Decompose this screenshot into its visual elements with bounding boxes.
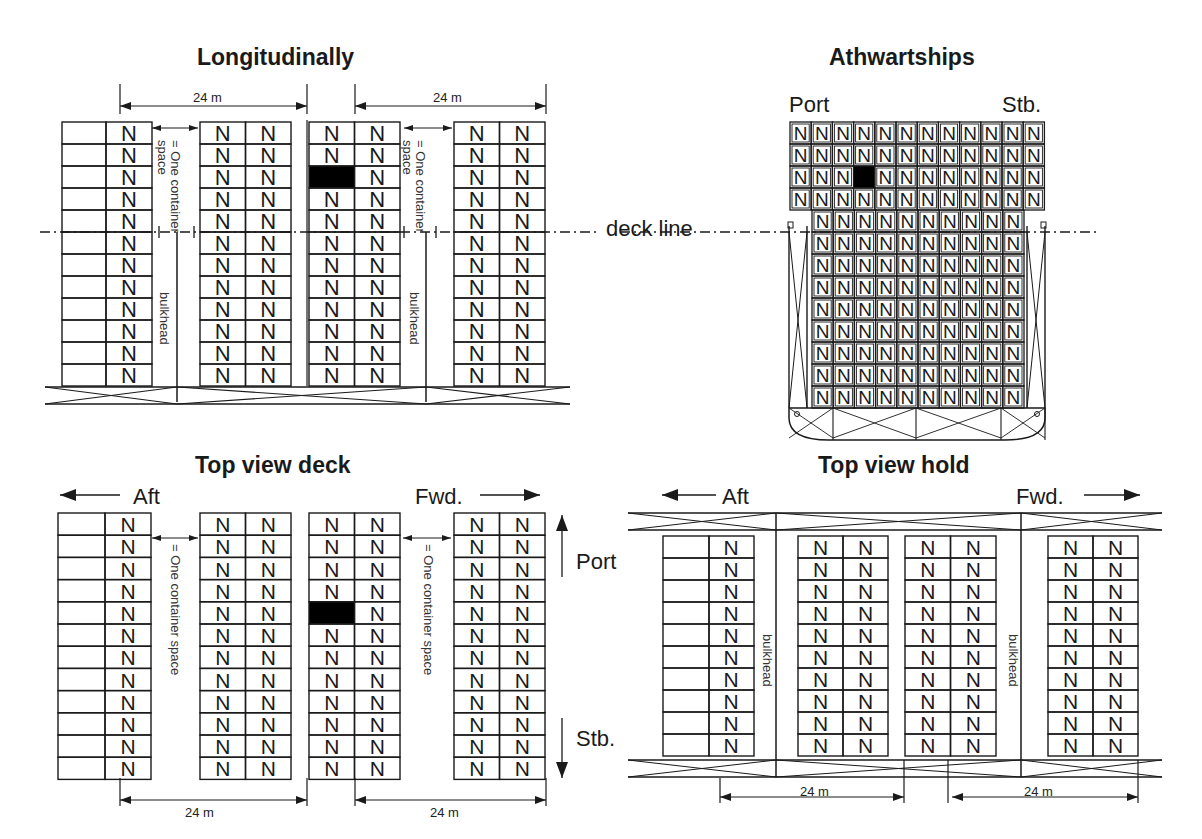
svg-text:N: N	[324, 713, 339, 736]
label-stb-athwart: Stb.	[1002, 92, 1041, 118]
svg-text:N: N	[920, 734, 935, 757]
container-glyph: N	[964, 365, 978, 386]
container-glyph: N	[964, 321, 978, 342]
svg-text:N: N	[469, 735, 484, 758]
svg-text:N: N	[324, 646, 339, 669]
svg-text:N: N	[1108, 558, 1123, 581]
container-glyph: N	[900, 123, 914, 144]
svg-text:N: N	[966, 558, 981, 581]
container-glyph: N	[922, 277, 936, 298]
svg-text:N: N	[966, 580, 981, 603]
container-glyph: N	[879, 387, 893, 408]
svg-text:N: N	[370, 713, 385, 736]
svg-text:N: N	[370, 580, 385, 603]
svg-text:N: N	[370, 735, 385, 758]
container-glyph: N	[879, 321, 893, 342]
svg-text:N: N	[469, 363, 485, 388]
container-glyph: N	[837, 277, 851, 298]
container-glyph: N	[901, 277, 915, 298]
container-glyph: N	[1007, 343, 1021, 364]
svg-text:N: N	[370, 757, 385, 780]
container-glyph: N	[922, 255, 936, 276]
container-glyph: N	[120, 580, 135, 603]
container-glyph: N	[922, 299, 936, 320]
svg-text:N: N	[966, 602, 981, 625]
container-glyph: N	[858, 233, 872, 254]
container-bay: NNNNNNNNNNNNNNNNNNNN	[798, 536, 888, 757]
svg-text:N: N	[1063, 734, 1078, 757]
container-glyph: N	[985, 299, 999, 320]
svg-text:N: N	[469, 713, 484, 736]
container-glyph: N	[1027, 189, 1041, 210]
svg-text:N: N	[1063, 690, 1078, 713]
svg-text:N: N	[1108, 712, 1123, 735]
container-glyph: N	[964, 211, 978, 232]
note-one-container-space-long-1: = One containerspace	[156, 140, 182, 233]
svg-text:N: N	[920, 712, 935, 735]
svg-text:N: N	[1063, 602, 1078, 625]
svg-text:N: N	[515, 580, 530, 603]
container-glyph: N	[723, 558, 738, 581]
container-glyph: N	[879, 299, 893, 320]
container-glyph: N	[836, 189, 850, 210]
svg-text:N: N	[920, 646, 935, 669]
container-glyph: N	[901, 365, 915, 386]
container-glyph: N	[900, 189, 914, 210]
svg-text:N: N	[515, 602, 530, 625]
container-glyph: N	[964, 299, 978, 320]
svg-text:N: N	[858, 690, 873, 713]
svg-text:N: N	[215, 558, 230, 581]
dim-label-deck-1: 24 m	[185, 805, 214, 820]
svg-text:N: N	[966, 646, 981, 669]
container-glyph: N	[901, 255, 915, 276]
container-glyph: N	[120, 602, 135, 625]
svg-text:N: N	[370, 602, 385, 625]
svg-text:N: N	[1063, 536, 1078, 559]
container-glyph: N	[985, 167, 999, 188]
container-glyph: N	[901, 233, 915, 254]
svg-text:N: N	[1108, 690, 1123, 713]
svg-text:N: N	[920, 536, 935, 559]
container-glyph: N	[794, 189, 808, 210]
dim-label-hold-1: 24 m	[800, 784, 829, 799]
dim-label-hold-2: 24 m	[1024, 784, 1053, 799]
container-bay: NNNNNNNNNNNNNNNNNNNNNNNN	[454, 121, 545, 388]
title-top-view-deck: Top view deck	[195, 452, 351, 479]
svg-text:N: N	[215, 363, 231, 388]
container-glyph: N	[963, 145, 977, 166]
container-glyph: N	[985, 365, 999, 386]
svg-text:N: N	[1063, 558, 1078, 581]
label-fwd-hold: Fwd.	[1016, 484, 1064, 510]
svg-text:N: N	[469, 669, 484, 692]
container-glyph: N	[1006, 189, 1020, 210]
container-glyph: N	[963, 189, 977, 210]
svg-text:N: N	[515, 535, 530, 558]
container-glyph: N	[1006, 123, 1020, 144]
container-glyph: N	[1027, 145, 1041, 166]
svg-text:N: N	[920, 580, 935, 603]
svg-text:N: N	[469, 580, 484, 603]
svg-text:N: N	[370, 646, 385, 669]
container-glyph: N	[816, 321, 830, 342]
container-glyph: N	[879, 167, 893, 188]
svg-text:N: N	[966, 734, 981, 757]
svg-text:N: N	[370, 558, 385, 581]
container-glyph: N	[723, 624, 738, 647]
bulkhead-label-long-2: bulkhead	[407, 292, 422, 345]
container-glyph: N	[943, 255, 957, 276]
container-glyph: N	[1007, 387, 1021, 408]
container-glyph: N	[1027, 123, 1041, 144]
svg-text:N: N	[261, 580, 276, 603]
container-glyph: N	[120, 513, 135, 536]
container-glyph: N	[985, 145, 999, 166]
svg-text:N: N	[370, 513, 385, 536]
container-glyph: N	[815, 167, 829, 188]
container-glyph: N	[836, 145, 850, 166]
container-glyph: N	[901, 299, 915, 320]
svg-text:N: N	[324, 580, 339, 603]
container-glyph: N	[857, 189, 871, 210]
container-glyph: N	[985, 277, 999, 298]
container-glyph: N	[858, 255, 872, 276]
container-glyph: N	[985, 211, 999, 232]
container-glyph: N	[816, 343, 830, 364]
